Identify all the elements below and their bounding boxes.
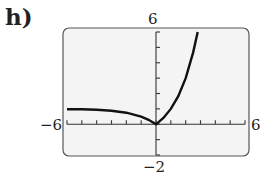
y-min-label: −2 — [143, 158, 165, 176]
chart-plot — [0, 0, 264, 181]
x-min-label: −6 — [40, 116, 62, 134]
x-max-label: 6 — [251, 116, 261, 134]
y-max-label: 6 — [148, 10, 158, 28]
